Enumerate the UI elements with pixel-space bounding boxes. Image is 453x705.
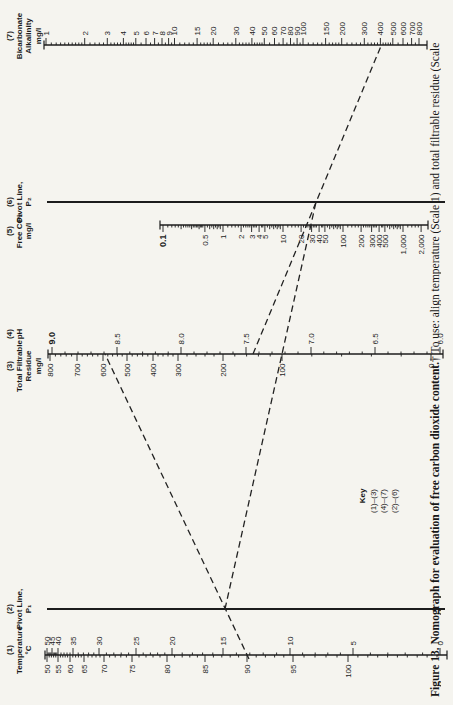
tick-label: 200 <box>338 22 347 36</box>
tick-label: 75 <box>128 664 137 673</box>
tick-label: 55 <box>54 664 63 673</box>
scale-title: P₁ <box>24 604 33 613</box>
tick-label: 700 <box>73 363 82 377</box>
tick-label: 40 <box>248 26 257 35</box>
key-title: Key <box>358 473 369 519</box>
tick-label: 85 <box>201 664 210 673</box>
tick-label: 800 <box>46 363 55 377</box>
tick-label: 3 <box>103 31 112 36</box>
tick-label: 5 <box>349 641 358 646</box>
scale-title: (4) <box>5 329 14 339</box>
tick-label: 95 <box>289 664 298 673</box>
scale-title: (2) <box>5 604 14 614</box>
tick-label: 500 <box>381 234 390 248</box>
tick-label: 400 <box>149 363 158 377</box>
figure-caption-text: † To use: align temperature (Scale 1) an… <box>429 43 441 362</box>
tick-label: 0.5 <box>201 234 210 246</box>
scale-free-co2: (5)Free CO₂mg/l0.10.51234510203040501002… <box>5 213 428 254</box>
figure-caption-title: Figure 13. Nomograph for evaluation of f… <box>429 362 441 697</box>
tick-label: 5 <box>132 31 141 36</box>
tick-label: 15 <box>219 636 228 645</box>
tick-label: 1 <box>42 31 51 36</box>
tick-label: 0.1 <box>158 235 168 248</box>
tick-label: 2 <box>237 234 246 239</box>
tick-label: 100 <box>278 363 287 377</box>
example-alignment-lines <box>105 46 381 659</box>
scale-title: (7) <box>5 31 14 41</box>
tick-label: 15 <box>193 26 202 35</box>
tick-label: 70 <box>100 664 109 673</box>
tick-label: 20 <box>297 234 306 243</box>
tick-label: 500 <box>389 22 398 36</box>
tick-label: 35 <box>69 636 78 645</box>
tick-label: 50 <box>321 234 330 243</box>
tick-label: 25 <box>132 636 141 645</box>
tick-label: 80 <box>163 664 172 673</box>
scale-title: Residue <box>24 350 33 382</box>
tick-label: 7.5 <box>242 333 251 345</box>
tick-label: 10 <box>279 234 288 243</box>
scale-title: P₂ <box>24 197 33 206</box>
tick-label: 20 <box>168 636 177 645</box>
tick-label: 7.0 <box>307 333 316 345</box>
tick-label: 50 <box>43 664 52 673</box>
figure-caption: Figure 13. Nomograph for evaluation of f… <box>429 1 441 697</box>
tick-label: 8.5 <box>113 333 122 345</box>
scale-bicarbonate-alkalinity: (7)BicarbonateAlkalinitymg/l123456789101… <box>5 12 427 59</box>
tick-label: 8.0 <box>177 333 186 345</box>
scale-title: mg/l <box>34 358 43 374</box>
scale-title: (5) <box>5 226 14 236</box>
scale-title: (1) <box>5 645 14 655</box>
scale-title: (6) <box>5 197 14 207</box>
scale-residue-ph: (3)Total FiltrableResiduemg/l(4)pH800700… <box>5 328 445 391</box>
example-line-align-scale1-to-scale3 <box>105 354 249 659</box>
scanned-figure-page: (1)Temperature°C504540353025201510505055… <box>0 0 453 705</box>
tick-label: 40 <box>54 636 63 645</box>
scale-title: Temperature <box>15 626 24 674</box>
tick-label: 300 <box>174 363 183 377</box>
tick-label: 400 <box>376 22 385 36</box>
key-line: (4)–(7) <box>379 473 390 519</box>
tick-label: 1,000 <box>399 234 408 255</box>
key-line: (1)–(3) <box>369 473 380 519</box>
tick-label: 1 <box>219 234 228 239</box>
tick-label: 30 <box>95 636 104 645</box>
tick-label: 300 <box>360 22 369 36</box>
example-line-align-scale4-to-scale7 <box>253 46 381 354</box>
tick-label: 100 <box>339 234 348 248</box>
nomograph-landscape-container: (1)Temperature°C504540353025201510505055… <box>0 0 453 705</box>
tick-label: 100 <box>344 664 353 678</box>
tick-label: 4 <box>119 31 128 36</box>
scale-temperature: (1)Temperature°C504540353025201510505055… <box>5 626 447 678</box>
scale-title: Pivot Line, <box>15 182 24 222</box>
scale-title: Bicarbonate <box>15 12 24 59</box>
tick-label: 50 <box>260 26 269 35</box>
tick-label: 5 <box>261 234 270 239</box>
tick-label: 9.0 <box>47 332 57 345</box>
tick-label: 200 <box>219 363 228 377</box>
tick-label: 2,000 <box>417 234 426 255</box>
tick-label: 200 <box>357 234 366 248</box>
tick-label: 60 <box>66 664 75 673</box>
scale-title: Alkalinity <box>24 18 33 54</box>
scale-title: Total Filtrable <box>15 340 24 392</box>
nomograph-canvas: (1)Temperature°C504540353025201510505055… <box>0 0 453 705</box>
key-line: (2)–(6) <box>390 473 401 519</box>
tick-label: 10 <box>170 26 179 35</box>
tick-label: 20 <box>209 26 218 35</box>
tick-label: 90 <box>243 664 252 673</box>
tick-label: 2 <box>81 31 90 36</box>
tick-label: 800 <box>415 22 424 36</box>
scale-title: mg/l <box>24 223 33 239</box>
scale-title: Pivot Line, <box>15 589 24 629</box>
tick-label: 30 <box>232 26 241 35</box>
scale-title: (3) <box>5 361 14 371</box>
tick-label: 500 <box>123 363 132 377</box>
scale-pivot-line-p2: (6)Pivot Line,P₂ <box>5 182 445 222</box>
tick-label: 10 <box>286 636 295 645</box>
key-block: Key (1)–(3) (4)–(7) (2)–(6) <box>358 473 400 519</box>
scale-title: °C <box>24 645 33 654</box>
tick-label: 100 <box>299 22 308 36</box>
tick-label: 65 <box>80 664 89 673</box>
scale-title: pH <box>15 328 24 339</box>
